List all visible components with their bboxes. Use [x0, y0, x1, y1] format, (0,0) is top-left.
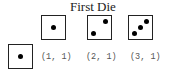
pip-icon [103, 19, 108, 24]
pip-icon [144, 19, 149, 24]
die-face-3 [128, 15, 153, 40]
pip-icon [132, 31, 137, 36]
outcome-label-2-1: (2, 1) [86, 52, 117, 62]
pip-icon [18, 54, 23, 59]
title: First Die [70, 0, 116, 14]
second-die-face-1 [8, 44, 33, 69]
outcome-label-1-1: (1, 1) [41, 52, 72, 62]
die-face-1 [41, 15, 66, 40]
die-face-2 [87, 15, 112, 40]
pip-icon [138, 25, 143, 30]
pip-icon [91, 31, 96, 36]
pip-icon [51, 25, 56, 30]
outcome-label-3-1: (3, 1) [130, 52, 161, 62]
